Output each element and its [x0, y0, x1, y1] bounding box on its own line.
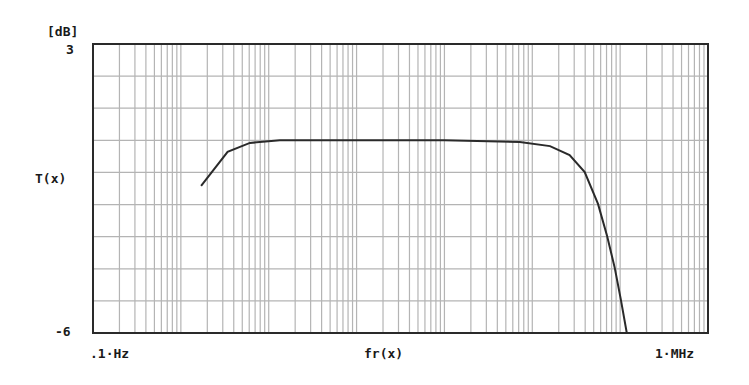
grid-lines — [93, 44, 708, 333]
x-max-tick-label: 1·MHz — [655, 346, 694, 361]
y-axis-label: T(x) — [35, 171, 66, 186]
y-min-tick-label: -6 — [55, 324, 71, 339]
x-axis-label: fr(x) — [364, 346, 403, 361]
y-unit-label: [dB] — [47, 24, 78, 39]
plot-area — [0, 0, 749, 385]
x-min-tick-label: .1·Hz — [90, 346, 129, 361]
y-max-tick-label: 3 — [66, 42, 74, 57]
